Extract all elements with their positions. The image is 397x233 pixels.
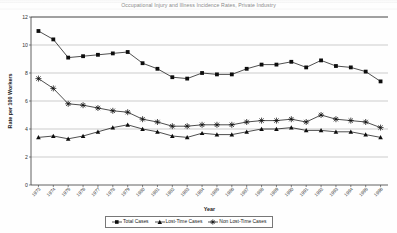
x-tick-label: 1988 — [254, 186, 265, 197]
x-tick-label: 1995 — [358, 186, 369, 197]
legend-marker-square-icon — [112, 218, 122, 226]
x-tick-label: 1990 — [284, 186, 295, 197]
x-tick-label: 1977 — [90, 186, 101, 197]
series-non-lost-time-cases — [35, 76, 383, 131]
x-tick-label: 1996 — [373, 186, 384, 197]
legend-label: Lost-Time Cases — [166, 219, 203, 224]
x-tick-label: 1979 — [120, 186, 131, 197]
legend-item-0[interactable]: Total Cases — [112, 218, 149, 226]
x-tick-label: 1992 — [313, 186, 324, 197]
legend-marker-triangle-icon — [155, 218, 165, 226]
chart-container: Occupational Injury and Illness Incidenc… — [0, 0, 397, 233]
x-tick-label: 1989 — [269, 186, 280, 197]
x-tick-label: 1983 — [180, 186, 191, 197]
series-total-cases — [37, 29, 383, 83]
x-tick-label: 1980 — [135, 186, 146, 197]
y-tick-label: 8 — [25, 70, 28, 76]
x-tick-label: 1986 — [224, 186, 235, 197]
x-axis-title: Year — [204, 206, 216, 212]
legend-item-2[interactable]: Non Lost-Time Cases — [208, 218, 266, 226]
y-tick-label: 2 — [25, 154, 28, 160]
series-lost-time-cases — [36, 123, 383, 141]
legend-marker-asterisk-icon — [208, 218, 218, 226]
x-tick-label: 1981 — [150, 186, 161, 197]
y-tick-label: 0 — [25, 182, 28, 188]
y-tick-label: 10 — [22, 42, 28, 48]
y-tick-label: 4 — [25, 126, 28, 132]
x-tick-label: 1994 — [343, 186, 354, 197]
y-tick-label: 6 — [25, 98, 28, 104]
y-tick-label: 12 — [22, 14, 28, 20]
chart-legend: Total CasesLost-Time CasesNon Lost-Time … — [105, 216, 273, 228]
x-tick-label: 1974 — [46, 186, 57, 197]
x-tick-label: 1984 — [194, 186, 205, 197]
plot-area: 0246810121973197419751976197719781979198… — [0, 0, 397, 233]
x-tick-label: 1978 — [105, 186, 116, 197]
x-tick-label: 1985 — [209, 186, 220, 197]
legend-label: Non Lost-Time Cases — [219, 219, 266, 224]
x-tick-label: 1991 — [299, 186, 310, 197]
x-tick-label: 1982 — [165, 186, 176, 197]
x-tick-label: 1987 — [239, 186, 250, 197]
x-tick-label: 1973 — [31, 186, 42, 197]
x-tick-label: 1993 — [328, 186, 339, 197]
x-tick-label: 1975 — [61, 186, 72, 197]
legend-label: Total Cases — [123, 219, 149, 224]
y-axis-title: Rate per 100 Workers — [7, 73, 13, 128]
legend-item-1[interactable]: Lost-Time Cases — [155, 218, 203, 226]
x-tick-label: 1976 — [75, 186, 86, 197]
